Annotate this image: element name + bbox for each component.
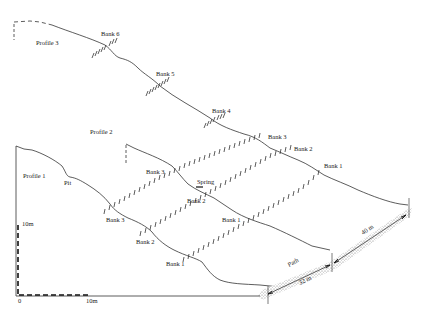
bank-3-ridge-hatch [104,133,260,214]
bank-1-lower-label: Bank 1 [166,260,185,267]
pit-label: Pit [64,179,71,186]
bank-6-label: Bank 6 [101,30,120,37]
path-band [258,208,412,300]
bank-2-ridge-hatch [140,145,291,236]
bank-5-label: Bank 5 [156,70,175,77]
profile-3-label: Profile 3 [36,39,59,46]
origin-label: 0 [18,297,21,304]
bank-3-upper-label: Bank 3 [268,133,287,140]
diagram-canvas: Profile 3 Profile 2 Profile 1 Bank 6 Ban… [0,0,427,318]
bank-5-hatch [146,77,169,96]
horizontal-scale-label: 10m [86,297,98,304]
bank-3-middle-label: Bank 3 [146,168,165,175]
bank-1-upper-label: Bank 1 [324,162,343,169]
bank-4-label: Bank 4 [212,107,231,114]
bank-2-upper-label: Bank 2 [294,145,313,152]
bank-2-lower-label: Bank 2 [136,238,155,245]
vertical-scale-label: 10m [22,220,34,227]
spring-label: Spring [197,178,215,185]
profile-2-label: Profile 2 [90,128,113,135]
bank-3-lower-label: Bank 3 [106,216,125,223]
slope-profiles-figure: Profile 3 Profile 2 Profile 1 Bank 6 Ban… [0,0,427,318]
path-label: Path [286,256,300,268]
bank-2-middle-label: Bank 2 [187,197,206,204]
bank-1-middle-label: Bank 1 [222,216,241,223]
profile-1-label: Profile 1 [23,172,46,179]
